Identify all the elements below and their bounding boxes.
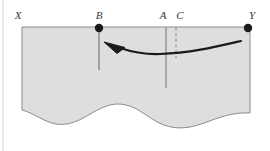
point-label-x: X bbox=[14, 9, 23, 21]
point-label-c: C bbox=[176, 9, 184, 21]
rock-body-shape bbox=[22, 27, 250, 128]
point-label-y: Y bbox=[249, 9, 257, 21]
cross-section-diagram: X B A C Y bbox=[0, 0, 270, 151]
point-label-a: A bbox=[159, 9, 167, 21]
figure-container: X B A C Y bbox=[0, 0, 270, 151]
point-marker-y bbox=[244, 24, 252, 32]
point-marker-b bbox=[95, 24, 103, 32]
point-label-b: B bbox=[96, 9, 103, 21]
